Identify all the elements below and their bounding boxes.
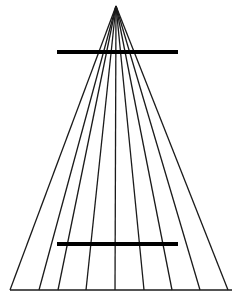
- test-bars-group: [57, 52, 178, 244]
- radiating-line-4: [86, 6, 116, 290]
- radiating-line-3: [58, 6, 116, 290]
- figure-canvas: [0, 0, 239, 302]
- radiating-line-5: [115, 6, 116, 290]
- radiating-line-6: [116, 6, 144, 290]
- ponzo-illusion-figure: [0, 0, 239, 302]
- radiating-line-9: [116, 6, 228, 290]
- radiating-line-2: [39, 6, 116, 290]
- radiating-lines-group: [10, 6, 228, 290]
- radiating-line-7: [116, 6, 172, 290]
- radiating-line-8: [116, 6, 200, 290]
- radiating-line-1: [10, 6, 116, 290]
